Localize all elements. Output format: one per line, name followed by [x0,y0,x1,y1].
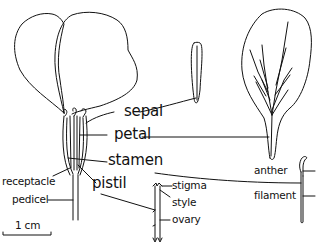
scale-bar [3,232,51,235]
label-receptacle: receptacle [2,176,55,187]
petal-veins [250,22,292,156]
label-ovary: ovary [172,214,201,225]
flower-diagram: sepal petal stamen pistil receptacle ped… [0,0,316,247]
style-leader [160,190,170,197]
label-petal: petal [114,127,151,142]
back-petal-outline [15,13,64,113]
label-sepal: sepal [124,104,163,119]
diagram-drawing [0,0,316,247]
label-style: style [172,197,196,208]
isolated-pistil [155,186,160,240]
label-anther: anther [254,165,287,176]
label-pedicel: pedicel [12,194,48,205]
sepal-left-curl [64,109,67,116]
receptacle-leader [53,168,70,176]
label-pistil: pistil [92,176,127,191]
pedicel-stem [73,175,78,220]
label-stamen: stamen [108,153,163,168]
label-stigma: stigma [172,180,207,191]
front-petal-outline [55,12,137,114]
label-filament: filament [254,190,296,201]
isolated-stamen-filament [301,172,303,223]
sepal-leader [86,112,114,123]
scale-bar-label: 1 cm [15,220,40,231]
pistil-leader-long [101,194,155,210]
